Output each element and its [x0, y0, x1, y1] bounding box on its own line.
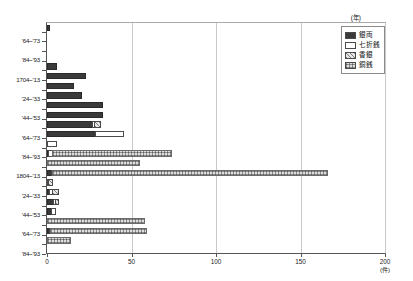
stacked-bar: [47, 179, 53, 185]
bar-row: [47, 42, 385, 52]
x-axis-tick: [301, 254, 302, 257]
bar-segment-ginryo: [47, 112, 103, 118]
stacked-bar: [47, 199, 59, 205]
legend-label: 銀両: [359, 32, 373, 39]
legend-item[interactable]: 香銀: [345, 50, 380, 60]
stacked-bar: [47, 83, 74, 89]
y-axis-unit-label: (年): [351, 14, 361, 21]
stacked-bar: [47, 121, 101, 127]
bar-row: [47, 178, 385, 188]
bar-row: [47, 81, 385, 91]
bar-segment-dousen: [47, 218, 145, 224]
bar-row: [47, 236, 385, 246]
y-axis: '64~'73'84~'931704~'13'24~'33'44~'53'64~…: [0, 22, 46, 254]
y-axis-label: '24~'33: [22, 96, 40, 102]
y-axis-label: '24~'33: [22, 193, 40, 199]
bar-row: [47, 158, 385, 168]
stacked-bar: [47, 218, 145, 224]
x-axis-label: 150: [295, 258, 306, 265]
x-axis-tick: [385, 254, 386, 257]
bar-row: [47, 129, 385, 139]
bar-row: [47, 120, 385, 130]
bar-row: [47, 100, 385, 110]
chart-figure: (年) '64~'73'84~'931704~'13'24~'33'44~'53…: [0, 0, 413, 281]
x-axis-tick: [132, 254, 133, 257]
stacked-bar: [47, 189, 59, 195]
bar-segment-dousen: [52, 170, 327, 176]
bar-row: [47, 62, 385, 72]
bar-segment-nanaore: [47, 141, 57, 147]
legend-item[interactable]: 銀両: [345, 30, 380, 40]
legend-swatch-kagin: [345, 52, 356, 59]
stacked-bar: [47, 150, 172, 156]
stacked-bar: [47, 237, 71, 243]
bar-segment-dousen: [47, 237, 71, 243]
stacked-bar: [47, 25, 50, 31]
bar-segment-ginryo: [47, 63, 57, 69]
bar-segment-kagin: [55, 199, 58, 205]
bar-segment-ginryo: [47, 102, 103, 108]
bar-segment-nanaore: [95, 131, 124, 137]
bar-row: [47, 197, 385, 207]
bar-row: [47, 139, 385, 149]
y-axis-label: '84~'93: [22, 57, 40, 63]
bar-segment-ginryo: [47, 92, 82, 98]
legend-item[interactable]: 銅銭: [345, 60, 380, 70]
bar-rows: [47, 23, 385, 253]
bar-row: [47, 91, 385, 101]
bar-row: [47, 187, 385, 197]
stacked-bar: [47, 112, 103, 118]
y-axis-label: '44~'53: [22, 212, 40, 218]
stacked-bar: [47, 208, 56, 214]
legend-label: 銅銭: [359, 62, 373, 69]
bar-row: [47, 71, 385, 81]
bar-row: [47, 226, 385, 236]
x-axis-label: 0: [45, 258, 49, 265]
legend-item[interactable]: 七折銭: [345, 40, 380, 50]
legend-label: 七折銭: [359, 42, 380, 49]
bar-row: [47, 33, 385, 43]
bar-segment-nanaore: [51, 208, 56, 214]
stacked-bar: [47, 170, 328, 176]
bar-segment-kagin: [48, 179, 53, 185]
x-axis-label: 100: [211, 258, 222, 265]
bar-segment-dousen: [50, 228, 146, 234]
x-axis-tick: [47, 254, 48, 257]
legend-swatch-dousen: [345, 62, 356, 69]
legend-swatch-nanaore: [345, 42, 356, 49]
bar-row: [47, 216, 385, 226]
y-axis-label: 1804~'13: [16, 173, 40, 179]
bar-segment-dousen: [52, 150, 172, 156]
bar-segment-ginryo: [47, 131, 96, 137]
y-axis-label: '84~'93: [22, 251, 40, 257]
stacked-bar: [47, 228, 147, 234]
x-axis: 050100150200: [46, 254, 386, 274]
y-axis-label: '64~'73: [22, 135, 40, 141]
chart-legend: 銀両七折銭香銀銅銭: [341, 26, 385, 74]
x-axis-label: 200: [380, 258, 391, 265]
y-axis-label: 1704~'13: [16, 77, 40, 83]
legend-label: 香銀: [359, 52, 373, 59]
bar-row: [47, 23, 385, 33]
stacked-bar: [47, 102, 103, 108]
stacked-bar: [47, 92, 82, 98]
bar-row: [47, 149, 385, 159]
stacked-bar: [47, 131, 124, 137]
bar-segment-ginryo: [47, 121, 93, 127]
bar-segment-ginryo: [47, 25, 50, 31]
x-axis-label: 50: [128, 258, 135, 265]
legend-swatch-ginryo: [345, 32, 356, 39]
y-axis-label: '64~'73: [22, 38, 40, 44]
stacked-bar: [47, 160, 140, 166]
x-axis-tick: [216, 254, 217, 257]
y-axis-label: '84~'93: [22, 154, 40, 160]
stacked-bar: [47, 73, 86, 79]
bar-segment-dousen: [47, 160, 140, 166]
bar-row: [47, 168, 385, 178]
bar-segment-ginryo: [47, 83, 74, 89]
bar-row: [47, 110, 385, 120]
x-axis-unit-label: (件): [380, 266, 390, 273]
bar-row: [47, 207, 385, 217]
plot-area: [46, 22, 386, 254]
bar-segment-kagin: [52, 189, 59, 195]
